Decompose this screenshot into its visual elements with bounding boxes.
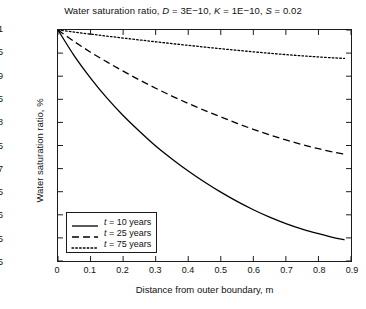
chart-title-main: Water saturation ratio, bbox=[64, 5, 159, 16]
legend-line-sample-dashed bbox=[71, 228, 99, 238]
legend-label-rest: = 75 years bbox=[107, 239, 152, 249]
x-tick-label: 0.2 bbox=[108, 265, 138, 275]
x-tick-label: 0.9 bbox=[337, 265, 366, 275]
x-tick-label: 0.7 bbox=[271, 265, 301, 275]
y-tick-label: 0.65 bbox=[0, 187, 3, 197]
y-tick-label: 0.7 bbox=[0, 164, 3, 174]
legend-label-rest: = 25 years bbox=[107, 228, 152, 238]
chart-title-val-s: = 0.02 bbox=[272, 5, 302, 16]
x-tick-label: 0 bbox=[42, 265, 72, 275]
legend-label-3: t = 75 years bbox=[104, 239, 151, 249]
data-series-line-2 bbox=[58, 30, 344, 154]
legend-line-sample-dotted bbox=[71, 239, 99, 249]
data-series-line-1 bbox=[58, 30, 344, 240]
legend-line-sample-solid bbox=[71, 217, 99, 227]
legend-item-2[interactable]: t = 25 years bbox=[71, 227, 151, 238]
y-tick-label: 0.9 bbox=[0, 71, 3, 81]
legend-item-1[interactable]: t = 10 years bbox=[71, 216, 151, 227]
x-tick-label: 0.3 bbox=[140, 265, 170, 275]
y-tick-label: 0.85 bbox=[0, 94, 3, 104]
x-tick-label: 0.4 bbox=[173, 265, 203, 275]
legend-label-rest: = 10 years bbox=[107, 217, 152, 227]
chart-legend: t = 10 yearst = 25 yearst = 75 years bbox=[66, 212, 157, 253]
y-tick-label: 0.6 bbox=[0, 210, 3, 220]
legend-label-2: t = 25 years bbox=[104, 228, 151, 238]
x-tick-label: 0.1 bbox=[75, 265, 105, 275]
y-tick-label: 0.8 bbox=[0, 117, 3, 127]
y-tick-label: 0.75 bbox=[0, 141, 3, 151]
x-tick-label: 0.6 bbox=[239, 265, 269, 275]
x-tick-label: 0.5 bbox=[206, 265, 236, 275]
chart-figure: Water saturation ratio, D = 3E−10, K = 1… bbox=[0, 0, 366, 309]
data-series-line-3 bbox=[58, 30, 344, 58]
x-axis-label: Distance from outer boundary, m bbox=[57, 284, 352, 295]
y-axis-label: Water saturation ratio, % bbox=[34, 51, 45, 251]
chart-title-val-k: = 1E−10, bbox=[221, 5, 263, 16]
y-tick-label: 1 bbox=[0, 24, 3, 34]
x-tick-label: 0.8 bbox=[304, 265, 334, 275]
chart-title-val-d: = 3E−10, bbox=[169, 5, 211, 16]
data-series-group bbox=[58, 30, 344, 240]
y-tick-label: 0.55 bbox=[0, 234, 3, 244]
legend-item-3[interactable]: t = 75 years bbox=[71, 238, 151, 249]
y-tick-label: 0.5 bbox=[0, 257, 3, 267]
y-tick-label: 0.95 bbox=[0, 47, 3, 57]
chart-title: Water saturation ratio, D = 3E−10, K = 1… bbox=[0, 5, 366, 16]
legend-label-1: t = 10 years bbox=[104, 217, 151, 227]
